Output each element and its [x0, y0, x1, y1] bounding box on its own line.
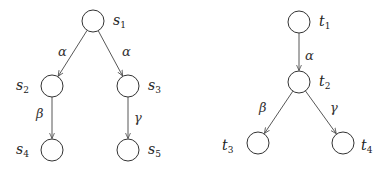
node-s4: [41, 139, 63, 161]
edge-label-s1-s2: α: [58, 44, 67, 59]
node-label-t2: t2: [319, 73, 330, 91]
node-s2: [41, 75, 63, 97]
node-label-s1: s1: [113, 12, 126, 30]
node-label-s3: s3: [148, 77, 161, 95]
node-label-t4: t4: [361, 137, 373, 155]
left-tree: ααβγs1s2s3s4s5: [16, 10, 161, 161]
node-t4: [332, 132, 354, 154]
node-label-s2: s2: [16, 77, 29, 95]
edge-t2-t3: [264, 91, 292, 133]
node-label-s4: s4: [16, 141, 29, 159]
node-s5: [117, 139, 139, 161]
node-s3: [117, 75, 139, 97]
edge-label-t2-t4: γ: [330, 100, 338, 115]
node-t1: [288, 11, 310, 33]
edge-label-t1-t2: α: [305, 48, 314, 63]
edge-label-t2-t3: β: [258, 100, 267, 115]
node-label-t3: t3: [222, 137, 234, 155]
node-label-t1: t1: [319, 13, 330, 31]
node-t2: [288, 71, 310, 93]
node-label-s5: s5: [148, 141, 161, 159]
edge-s1-s3: [98, 31, 122, 76]
node-t3: [247, 132, 269, 154]
node-s1: [82, 10, 104, 32]
edge-label-s3-s5: γ: [134, 110, 142, 125]
right-tree: αβγt1t2t3t4: [222, 11, 373, 155]
edge-label-s1-s3: α: [122, 44, 131, 59]
edge-label-s2-s4: β: [35, 106, 44, 121]
diagram-canvas: ααβγs1s2s3s4s5αβγt1t2t3t4: [0, 0, 387, 170]
